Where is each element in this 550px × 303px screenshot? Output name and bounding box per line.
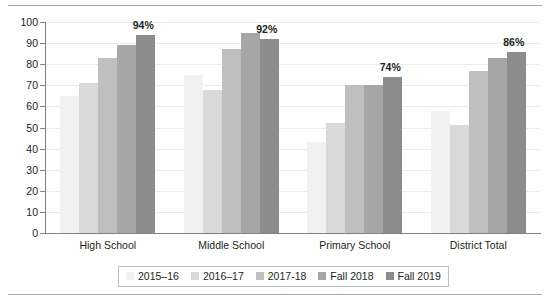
bar [136,35,155,233]
legend-label: 2016–17 [203,271,244,282]
y-axis-tick-label: 90 [8,38,38,49]
y-axis-tick-label: 0 [8,228,38,239]
bar [260,39,279,233]
y-axis-tick-mark [40,149,45,150]
legend-item[interactable]: Fall 2018 [318,271,373,282]
legend-label: Fall 2019 [398,271,441,282]
legend-swatch-icon [126,272,134,280]
bar [383,77,402,233]
y-axis-tick-mark [40,85,45,86]
bar [184,75,203,233]
bar [79,83,98,233]
bottom-divider-rule [8,294,542,295]
bar-group [46,22,170,233]
legend-swatch-icon [191,272,199,280]
y-axis-tick-mark [40,64,45,65]
bar-group [170,22,294,233]
bar [345,85,364,233]
y-axis-tick-label: 70 [8,80,38,91]
y-axis-tick-label: 100 [8,17,38,28]
legend-label: Fall 2018 [330,271,373,282]
bar-value-label: 92% [256,24,277,35]
category-label: Primary School [293,240,417,251]
bar [450,125,469,233]
bar-group [417,22,541,233]
bar [307,142,326,233]
bar-chart: 1009080706050403020100 High SchoolMiddle… [0,12,550,257]
bar [364,85,383,233]
x-axis-line [45,233,541,234]
legend-item[interactable]: 2017-18 [256,271,307,282]
bar-group [293,22,417,233]
y-axis-tick-mark [40,233,45,234]
legend-item[interactable]: 2016–17 [191,271,244,282]
y-axis-tick-mark [40,170,45,171]
chart-legend: 2015–162016–172017-18Fall 2018Fall 2019 [118,266,449,287]
legend-label: 2017-18 [268,271,307,282]
legend-swatch-icon [318,272,326,280]
legend-item[interactable]: Fall 2019 [386,271,441,282]
bar-value-label: 86% [503,37,524,48]
bar [222,49,241,233]
bar [241,33,260,233]
legend-swatch-icon [386,272,394,280]
category-label: Middle School [170,240,294,251]
y-axis-tick-label: 60 [8,101,38,112]
bar [60,96,79,233]
bar [507,52,526,233]
bar [469,71,488,233]
y-axis-tick-label: 80 [8,59,38,70]
y-axis-tick-mark [40,106,45,107]
category-label: High School [46,240,170,251]
legend-swatch-icon [256,272,264,280]
y-axis-tick-mark [40,128,45,129]
y-axis-tick-mark [40,212,45,213]
legend-label: 2015–16 [138,271,179,282]
y-axis-tick-label: 20 [8,186,38,197]
y-axis-tick-label: 40 [8,144,38,155]
bar-value-label: 74% [380,62,401,73]
category-label: District Total [417,240,541,251]
legend-item[interactable]: 2015–16 [126,271,179,282]
bar [203,90,222,233]
y-axis-tick-mark [40,191,45,192]
top-divider-rule [8,5,542,6]
bar-value-label: 94% [133,20,154,31]
y-axis-tick-label: 30 [8,165,38,176]
y-axis-tick-mark [40,43,45,44]
y-axis-tick-label: 50 [8,123,38,134]
bar [326,123,345,233]
bar [431,111,450,233]
bar [488,58,507,233]
bar [98,58,117,233]
y-axis-tick-label: 10 [8,207,38,218]
y-axis-tick-mark [40,22,45,23]
plot-area [46,22,540,233]
bar [117,45,136,233]
